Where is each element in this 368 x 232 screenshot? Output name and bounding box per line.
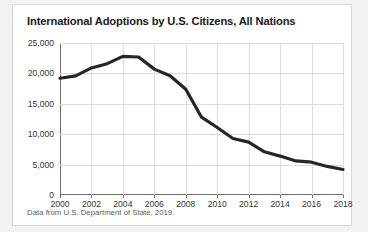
y-axis-tick-label: 25,000: [28, 38, 54, 48]
x-axis-tick-label: 2014: [271, 199, 290, 209]
chart-title: International Adoptions by U.S. Citizens…: [27, 15, 295, 27]
y-axis-tick-label: 5,000: [32, 160, 54, 170]
x-axis-tick-mark: [91, 195, 92, 198]
x-axis-tick-mark: [249, 195, 250, 198]
figure-card: International Adoptions by U.S. Citizens…: [12, 4, 352, 226]
series-line: [60, 43, 343, 195]
x-axis-tick-mark: [343, 195, 344, 198]
x-axis-tick-mark: [60, 195, 61, 198]
x-axis-tick-mark: [217, 195, 218, 198]
x-axis-tick-label: 2018: [333, 199, 352, 209]
x-axis-tick-label: 2012: [239, 199, 258, 209]
x-axis-tick-mark: [154, 195, 155, 198]
data-line: [60, 56, 343, 169]
x-axis-tick-mark: [280, 195, 281, 198]
plot-area: 05,00010,00015,00020,00025,000 200020022…: [60, 43, 343, 195]
x-axis-tick-mark: [123, 195, 124, 198]
page-background: International Adoptions by U.S. Citizens…: [0, 0, 368, 232]
x-axis-tick-label: 2016: [302, 199, 321, 209]
x-axis-tick-mark: [186, 195, 187, 198]
y-axis-tick-label: 20,000: [28, 68, 54, 78]
y-axis-tick-label: 10,000: [28, 129, 54, 139]
gridline-vertical: [343, 43, 344, 195]
x-axis-tick-label: 2008: [176, 199, 195, 209]
x-axis-tick-mark: [312, 195, 313, 198]
y-axis-tick-label: 15,000: [28, 99, 54, 109]
source-note: Data from U.S. Department of State, 2019…: [27, 208, 174, 217]
x-axis-tick-label: 2010: [208, 199, 227, 209]
